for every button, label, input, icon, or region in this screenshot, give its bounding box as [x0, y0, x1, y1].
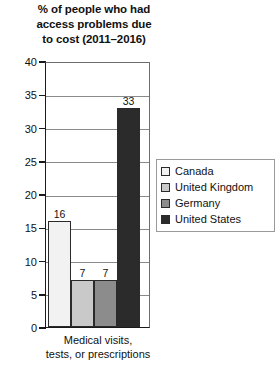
bar [117, 108, 140, 327]
x-axis-label: Medical visits, tests, or prescriptions [8, 333, 188, 361]
bar [48, 221, 71, 327]
legend-item[interactable]: Canada [161, 163, 270, 179]
legend-swatch-icon [161, 167, 170, 176]
y-axis-tick-label: 30 [0, 124, 37, 135]
y-axis-tick-label: 20 [0, 190, 37, 201]
bar [71, 280, 94, 327]
legend-item[interactable]: United Kingdom [161, 179, 270, 195]
y-axis-tick-label: 40 [0, 57, 37, 68]
legend-swatch-icon [161, 199, 170, 208]
bar-value-label: 7 [71, 268, 94, 279]
bar-group: 167733 [46, 63, 149, 327]
legend-item-label: United Kingdom [175, 179, 253, 195]
plot-area: 167733 [45, 62, 150, 328]
legend-item[interactable]: United States [161, 211, 270, 227]
bar-value-label: 33 [117, 96, 140, 107]
y-axis-tick-label: 5 [0, 290, 37, 301]
chart-title: % of people who had access problems due … [14, 2, 174, 47]
legend-item-label: Canada [175, 163, 214, 179]
y-axis-tick-label: 10 [0, 257, 37, 268]
y-axis-tick-label: 15 [0, 223, 37, 234]
legend-item-label: Germany [175, 195, 220, 211]
legend-swatch-icon [161, 215, 170, 224]
bar-chart: % of people who had access problems due … [0, 0, 280, 368]
bar-value-label: 16 [48, 209, 71, 220]
chart-legend: CanadaUnited KingdomGermanyUnited States [156, 159, 275, 232]
y-axis-tick-label: 35 [0, 90, 37, 101]
bar [94, 280, 117, 327]
legend-item-label: United States [175, 211, 241, 227]
legend-swatch-icon [161, 183, 170, 192]
bar-value-label: 7 [94, 268, 117, 279]
y-axis-tick-label: 25 [0, 157, 37, 168]
legend-item[interactable]: Germany [161, 195, 270, 211]
